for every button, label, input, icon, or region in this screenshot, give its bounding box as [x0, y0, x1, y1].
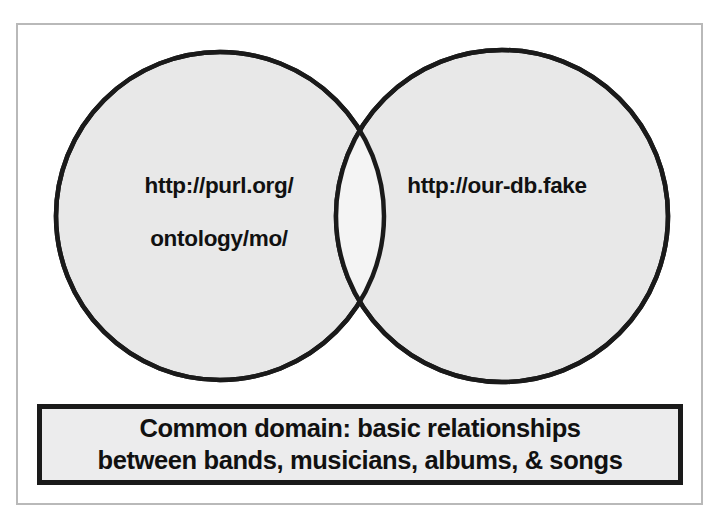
venn-diagram-page: http://purl.org/ ontology/mo/ http://our…	[0, 0, 718, 520]
left-set-label-line2: ontology/mo/	[80, 226, 358, 253]
right-set-label: http://our-db.fake	[372, 146, 622, 226]
right-set-label-line1: http://our-db.fake	[372, 173, 622, 200]
caption-box: Common domain: basic relationships betwe…	[37, 404, 683, 485]
caption-line-1: Common domain: basic relationships	[139, 413, 580, 444]
left-set-label-line1: http://purl.org/	[80, 173, 358, 200]
left-set-label: http://purl.org/ ontology/mo/	[80, 146, 358, 279]
caption-line-2: between bands, musicians, albums, & song…	[98, 445, 623, 476]
